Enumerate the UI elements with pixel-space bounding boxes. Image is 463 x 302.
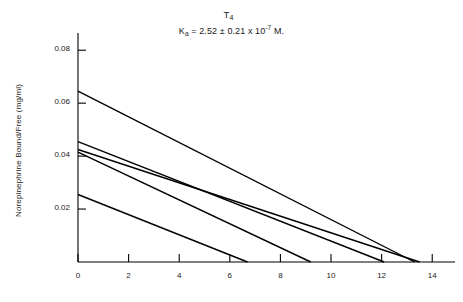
y-axis-ticks [78, 50, 86, 209]
x-tick-label: 6 [220, 271, 240, 280]
x-tick-label: 8 [270, 271, 290, 280]
data-line-line-5 [78, 194, 248, 262]
x-tick-label: 2 [119, 271, 139, 280]
x-tick-label: 4 [169, 271, 189, 280]
chart-title-subscript: 4 [229, 14, 233, 21]
chart-title: T4 [223, 10, 233, 22]
constant-value: = 2.52 ± 0.21 x 10 [189, 26, 266, 36]
chart-subtitle-binding-constant: Ka = 2.52 ± 0.21 x 10-7 M. [0, 24, 463, 37]
x-tick-label: 12 [372, 271, 392, 280]
x-tick-label: 10 [321, 271, 341, 280]
y-tick-label: 0.06 [36, 97, 70, 106]
data-line-line-3 [78, 149, 420, 262]
scatchard-plot-figure: T4 Ka = 2.52 ± 0.21 x 10-7 M. Norepineph… [0, 0, 463, 302]
constant-unit: M. [271, 26, 284, 36]
y-tick-label: 0.08 [36, 44, 70, 53]
data-line-line-4 [78, 152, 311, 262]
y-axis-title: Norepinephrine Bound/Free (mg/ml) [14, 41, 23, 261]
x-tick-label: 14 [422, 271, 442, 280]
y-axis-title-wrap: Norepinephrine Bound/Free (mg/ml) [0, 0, 26, 302]
title-block: T4 Ka = 2.52 ± 0.21 x 10-7 M. [0, 4, 463, 38]
data-line-line-2 [78, 142, 384, 262]
x-tick-label: 0 [68, 271, 88, 280]
axes-group [78, 33, 455, 262]
y-tick-label: 0.02 [36, 203, 70, 212]
x-axis-ticks [78, 254, 432, 262]
y-tick-label: 0.04 [36, 150, 70, 159]
data-lines-group [78, 91, 420, 262]
